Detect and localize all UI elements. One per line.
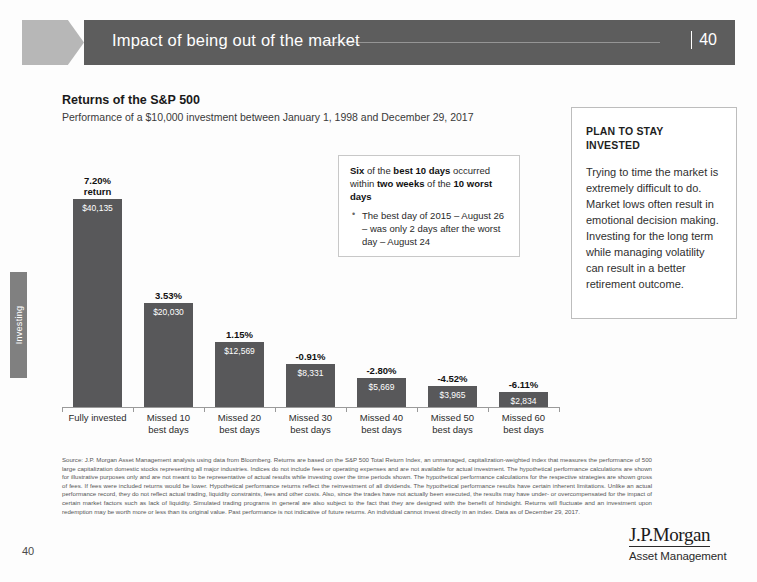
header-chevron-shape bbox=[22, 20, 84, 65]
logo-subtitle: Asset Management bbox=[629, 550, 739, 562]
x-axis-label: Fully invested bbox=[62, 412, 133, 424]
callout-bullet-list: The best day of 2015 – August 26 – was o… bbox=[350, 209, 509, 248]
callout-box: Six of the best 10 days occurred within … bbox=[338, 155, 520, 257]
sidebox-heading: PLAN TO STAY INVESTED bbox=[586, 124, 722, 152]
page-title: Impact of being out of the market bbox=[112, 31, 360, 50]
header-banner: Impact of being out of the market 40 bbox=[22, 20, 735, 65]
bar-value-label: $5,669 bbox=[357, 382, 406, 392]
slide-canvas: Impact of being out of the market 40 Inv… bbox=[0, 0, 757, 582]
x-axis-label: Missed 40 best days bbox=[346, 412, 417, 436]
jpmorgan-logo: J.P.Morgan Asset Management bbox=[629, 524, 739, 562]
bar: $5,669 bbox=[357, 378, 406, 407]
bar-return-label: -4.52% bbox=[437, 373, 467, 384]
x-axis-label: Missed 60 best days bbox=[488, 412, 559, 436]
header-divider-rule bbox=[322, 42, 660, 43]
bar: $2,834 bbox=[499, 392, 548, 407]
bar: $12,569 bbox=[215, 342, 264, 407]
bar-return-label: 3.53% bbox=[155, 290, 182, 301]
bar-group: 1.15%$12,569 bbox=[204, 329, 275, 407]
bar-group: -4.52%$3,965 bbox=[417, 373, 488, 407]
x-axis-label: Missed 10 best days bbox=[133, 412, 204, 436]
bar: $3,965 bbox=[428, 386, 477, 407]
bar-value-label: $8,331 bbox=[286, 368, 335, 378]
section-tab-investing: Investing bbox=[10, 272, 27, 378]
bar-group: 3.53%$20,030 bbox=[133, 290, 204, 407]
bar: $40,135 bbox=[73, 199, 122, 407]
header-pipe-divider bbox=[691, 31, 692, 49]
logo-wordmark: J.P.Morgan bbox=[629, 524, 710, 547]
bar-return-label: -6.11% bbox=[509, 379, 539, 390]
bar: $20,030 bbox=[144, 303, 193, 407]
sidebox-body-text: Trying to time the market is extremely d… bbox=[586, 164, 722, 292]
callout-lead-text: Six of the best 10 days occurred within … bbox=[350, 164, 509, 203]
callout-bullet: The best day of 2015 – August 26 – was o… bbox=[362, 209, 509, 248]
bar-return-label: 7.20% return bbox=[84, 175, 111, 197]
bar-return-label: -0.91% bbox=[295, 351, 325, 362]
chart-subtitle: Performance of a $10,000 investment betw… bbox=[62, 111, 474, 123]
source-footnote: Source: J.P. Morgan Asset Management ana… bbox=[62, 456, 652, 516]
bar: $8,331 bbox=[286, 364, 335, 407]
bar-value-label: $3,965 bbox=[428, 390, 477, 400]
x-axis-line bbox=[62, 407, 560, 408]
bar-value-label: $40,135 bbox=[73, 203, 122, 213]
bar-group: 7.20% return$40,135 bbox=[62, 175, 133, 407]
plan-to-stay-invested-box: PLAN TO STAY INVESTED Trying to time the… bbox=[571, 107, 737, 319]
bar-return-label: -2.80% bbox=[366, 365, 396, 376]
header-page-number: 40 bbox=[699, 31, 717, 49]
bar-return-label: 1.15% bbox=[226, 329, 253, 340]
x-axis-label: Missed 20 best days bbox=[204, 412, 275, 436]
x-axis-label: Missed 50 best days bbox=[417, 412, 488, 436]
x-axis-label: Missed 30 best days bbox=[275, 412, 346, 436]
footer-page-number: 40 bbox=[22, 545, 34, 557]
x-axis-labels: Fully investedMissed 10 best daysMissed … bbox=[62, 412, 560, 446]
bar-group: -0.91%$8,331 bbox=[275, 351, 346, 407]
header-page-indicator: 40 bbox=[691, 31, 717, 49]
bar-value-label: $20,030 bbox=[144, 307, 193, 317]
bar-value-label: $2,834 bbox=[499, 396, 548, 406]
bar-group: -6.11%$2,834 bbox=[488, 379, 559, 407]
section-tab-label: Investing bbox=[14, 306, 24, 345]
bar-group: -2.80%$5,669 bbox=[346, 365, 417, 407]
chart-title: Returns of the S&P 500 bbox=[62, 93, 200, 107]
bar-value-label: $12,569 bbox=[215, 346, 264, 356]
